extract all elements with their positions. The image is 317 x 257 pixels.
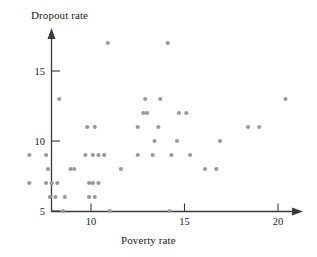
data-point bbox=[246, 125, 250, 129]
data-point bbox=[53, 195, 57, 199]
x-tick-label: 10 bbox=[86, 216, 97, 227]
data-point bbox=[68, 167, 72, 171]
data-point bbox=[136, 153, 140, 157]
data-point bbox=[119, 167, 123, 171]
data-point bbox=[156, 125, 160, 129]
data-point bbox=[55, 181, 59, 185]
data-point bbox=[87, 195, 91, 199]
data-point bbox=[27, 181, 31, 185]
data-point bbox=[151, 153, 155, 157]
data-point bbox=[158, 97, 162, 101]
data-point bbox=[27, 153, 31, 157]
data-point bbox=[50, 181, 54, 185]
data-point bbox=[48, 195, 52, 199]
data-point bbox=[177, 111, 181, 115]
data-point bbox=[188, 153, 192, 157]
data-point bbox=[102, 153, 106, 157]
data-point bbox=[106, 41, 110, 45]
data-point bbox=[257, 125, 261, 129]
data-point bbox=[93, 125, 97, 129]
data-point bbox=[72, 167, 76, 171]
x-axis bbox=[52, 208, 304, 216]
data-point bbox=[203, 167, 207, 171]
data-point bbox=[218, 139, 222, 143]
data-point bbox=[108, 209, 112, 213]
scatter-plot-figure: Dropout rate Poverty rate 51015 101520 bbox=[0, 0, 317, 257]
data-point bbox=[175, 139, 179, 143]
plot-canvas: 51015 101520 bbox=[0, 0, 317, 257]
data-point bbox=[61, 209, 65, 213]
data-point bbox=[167, 209, 171, 213]
data-point bbox=[184, 111, 188, 115]
data-point bbox=[169, 153, 173, 157]
data-point bbox=[83, 153, 87, 157]
data-point bbox=[214, 167, 218, 171]
data-point bbox=[44, 153, 48, 157]
data-points-layer bbox=[27, 41, 287, 213]
y-tick-label: 5 bbox=[40, 206, 45, 217]
data-point bbox=[57, 97, 61, 101]
data-point bbox=[152, 139, 156, 143]
data-point bbox=[44, 181, 48, 185]
data-point bbox=[91, 181, 95, 185]
y-axis-ticks: 51015 bbox=[35, 66, 61, 217]
data-point bbox=[96, 181, 100, 185]
y-tick-label: 15 bbox=[35, 66, 46, 77]
data-point bbox=[136, 125, 140, 129]
x-tick-label: 15 bbox=[179, 216, 190, 227]
x-axis-ticks: 101520 bbox=[86, 204, 284, 228]
data-point bbox=[63, 195, 67, 199]
y-tick-label: 10 bbox=[35, 136, 46, 147]
data-point bbox=[283, 97, 287, 101]
data-point bbox=[145, 111, 149, 115]
data-point bbox=[96, 153, 100, 157]
data-point bbox=[141, 111, 145, 115]
x-tick-label: 20 bbox=[273, 216, 284, 227]
data-point bbox=[85, 125, 89, 129]
data-point bbox=[93, 195, 97, 199]
data-point bbox=[166, 41, 170, 45]
data-point bbox=[91, 153, 95, 157]
data-point bbox=[143, 97, 147, 101]
data-point bbox=[87, 181, 91, 185]
data-point bbox=[46, 167, 50, 171]
